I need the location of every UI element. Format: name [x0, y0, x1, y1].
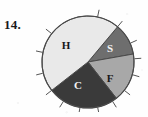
pie-slice-label-h: H: [62, 39, 71, 51]
tick-mark: [98, 108, 99, 112]
item-number-label: 14.: [4, 18, 21, 32]
tick-mark: [98, 10, 99, 16]
tick-mark: [113, 102, 116, 107]
tick-mark: [46, 29, 51, 33]
tick-mark: [60, 102, 63, 107]
tick-mark: [46, 91, 51, 95]
tick-mark: [133, 75, 139, 77]
pie-slice-label-f: F: [107, 72, 114, 84]
tick-mark: [118, 21, 122, 26]
pie-slice-label-s: S: [107, 42, 113, 54]
pie-chart: SFCH: [36, 8, 142, 112]
tick-mark: [37, 73, 43, 74]
figure-container: 14. SFCH: [0, 0, 148, 117]
tick-mark: [79, 108, 80, 112]
pie-slice-label-c: C: [74, 79, 82, 91]
tick-mark: [125, 91, 130, 95]
pie-chart-svg: SFCH: [36, 8, 142, 112]
tick-mark: [131, 40, 136, 42]
tick-mark: [36, 51, 42, 52]
